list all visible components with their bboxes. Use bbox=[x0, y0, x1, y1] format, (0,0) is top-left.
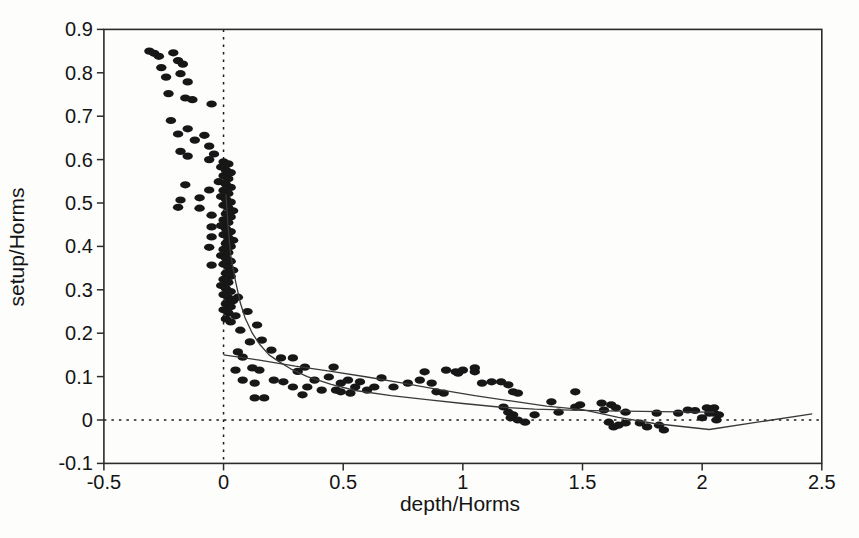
data-point bbox=[183, 153, 193, 160]
data-point bbox=[642, 423, 652, 430]
data-point bbox=[477, 380, 487, 387]
data-point bbox=[673, 410, 683, 417]
data-point bbox=[288, 383, 298, 390]
data-point bbox=[520, 419, 530, 426]
data-point bbox=[166, 117, 176, 124]
y-axis-tick-label: 0.5 bbox=[65, 192, 93, 214]
y-axis-tick-label: 0 bbox=[82, 409, 93, 431]
data-point bbox=[206, 212, 216, 219]
y-axis-tick-label: 0.8 bbox=[65, 62, 93, 84]
fit-curve-steep-line bbox=[226, 194, 714, 412]
data-point bbox=[238, 377, 248, 384]
data-point bbox=[161, 74, 171, 81]
data-point bbox=[204, 156, 214, 163]
data-point bbox=[254, 367, 264, 374]
data-point bbox=[709, 410, 719, 417]
data-point bbox=[269, 377, 279, 384]
y-axis-tick-label: 0.9 bbox=[65, 18, 93, 40]
data-point bbox=[513, 390, 523, 397]
data-point bbox=[204, 143, 214, 150]
data-point bbox=[529, 411, 539, 418]
data-point bbox=[183, 78, 193, 85]
data-point bbox=[620, 409, 630, 416]
data-point bbox=[194, 194, 204, 201]
data-point bbox=[187, 96, 197, 103]
data-point bbox=[204, 186, 214, 193]
scatter-plot-figure: -0.500.511.522.5-0.100.10.20.30.40.50.60… bbox=[0, 0, 859, 538]
data-point bbox=[369, 383, 379, 390]
data-point bbox=[288, 354, 298, 361]
data-point bbox=[575, 401, 585, 408]
data-point bbox=[252, 321, 262, 328]
x-axis-label: depth/Horms bbox=[400, 492, 520, 515]
data-point bbox=[328, 364, 338, 371]
data-point bbox=[168, 49, 178, 56]
data-point bbox=[690, 407, 700, 414]
data-point bbox=[173, 204, 183, 211]
data-point bbox=[180, 181, 190, 188]
y-axis-tick-label: 0.7 bbox=[65, 105, 93, 127]
data-point bbox=[230, 367, 240, 374]
data-point bbox=[206, 100, 216, 107]
data-point bbox=[259, 394, 269, 401]
y-axis-tick-label: 0.3 bbox=[65, 279, 93, 301]
data-point bbox=[156, 64, 166, 71]
data-point bbox=[317, 387, 327, 394]
data-point bbox=[620, 419, 630, 426]
x-axis-tick-label: -0.5 bbox=[87, 471, 121, 493]
y-axis-tick-label: -0.1 bbox=[58, 452, 92, 474]
y-axis-label: setup/Horms bbox=[5, 187, 28, 306]
data-point bbox=[324, 373, 334, 380]
x-axis-tick-label: 1.5 bbox=[569, 471, 597, 493]
x-axis-tick-label: 0 bbox=[218, 471, 229, 493]
data-point bbox=[415, 377, 425, 384]
data-point bbox=[427, 380, 437, 387]
data-point bbox=[250, 394, 260, 401]
data-point bbox=[388, 383, 398, 390]
data-point bbox=[199, 132, 209, 139]
x-axis-tick-label: 0.5 bbox=[329, 471, 357, 493]
data-point bbox=[154, 53, 164, 60]
data-point bbox=[596, 400, 606, 407]
data-point bbox=[453, 370, 463, 377]
data-point bbox=[336, 388, 346, 395]
x-axis-tick-label: 2 bbox=[697, 471, 708, 493]
data-point bbox=[441, 367, 451, 374]
data-point bbox=[175, 196, 185, 203]
data-point bbox=[190, 137, 200, 144]
data-point bbox=[486, 378, 496, 385]
data-point bbox=[470, 364, 480, 371]
data-point bbox=[506, 414, 516, 421]
data-point bbox=[419, 368, 429, 375]
data-point bbox=[230, 312, 240, 319]
data-point bbox=[206, 233, 216, 240]
data-point bbox=[175, 70, 185, 77]
data-point bbox=[206, 262, 216, 269]
data-point bbox=[204, 244, 214, 251]
data-point bbox=[183, 125, 193, 132]
data-point bbox=[278, 378, 288, 385]
data-point bbox=[652, 410, 662, 417]
data-point bbox=[302, 383, 312, 390]
data-point bbox=[546, 398, 556, 405]
data-point bbox=[173, 130, 183, 137]
data-point bbox=[297, 391, 307, 398]
x-axis-tick-label: 1 bbox=[457, 471, 468, 493]
data-point bbox=[178, 61, 188, 68]
x-axis-tick-label: 2.5 bbox=[808, 471, 836, 493]
y-axis-tick-label: 0.4 bbox=[65, 235, 93, 257]
y-axis-tick-label: 0.2 bbox=[65, 322, 93, 344]
y-axis-tick-label: 0.1 bbox=[65, 366, 93, 388]
data-point bbox=[226, 318, 236, 325]
data-point bbox=[250, 380, 260, 387]
data-point bbox=[206, 223, 216, 230]
data-point bbox=[599, 406, 609, 413]
data-point bbox=[163, 90, 173, 97]
data-point bbox=[503, 381, 513, 388]
data-point bbox=[235, 327, 245, 334]
data-point bbox=[355, 378, 365, 385]
data-point bbox=[194, 205, 204, 212]
y-axis-tick-label: 0.6 bbox=[65, 149, 93, 171]
chart-canvas: -0.500.511.522.5-0.100.10.20.30.40.50.60… bbox=[0, 0, 859, 538]
data-point bbox=[245, 338, 255, 345]
